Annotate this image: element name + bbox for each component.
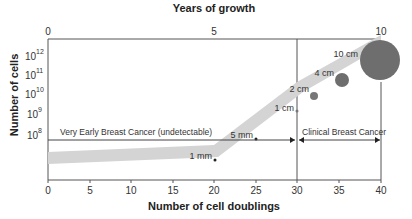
svg-text:10: 10 <box>36 86 44 93</box>
x-tick-40: 40 <box>375 185 387 196</box>
x-tick-30: 30 <box>291 185 303 196</box>
label-4cm: 4 cm <box>314 68 334 78</box>
top-tick-10: 10 <box>375 26 387 37</box>
svg-text:10: 10 <box>25 70 37 81</box>
label-1cm: 1 cm <box>274 103 294 113</box>
arrow-left-icon <box>299 137 304 143</box>
svg-text:10: 10 <box>27 130 39 141</box>
x-axis-label: Number of cell doublings <box>148 200 280 212</box>
svg-text:10: 10 <box>27 109 39 120</box>
circle-2cm <box>310 92 318 100</box>
top-tick-0: 0 <box>45 26 51 37</box>
label-2cm: 2 cm <box>289 84 309 94</box>
arrow-right-icon <box>290 137 295 143</box>
arrow-right-icon <box>375 137 380 143</box>
growth-band <box>48 35 381 164</box>
y-axis-label: Number of cells <box>8 54 20 137</box>
svg-text:10: 10 <box>25 51 37 62</box>
svg-text:9: 9 <box>38 106 42 113</box>
early-cancer-label: Very Early Breast Cancer (undetectable) <box>60 127 212 137</box>
label-5mm: 5 mm <box>231 130 254 140</box>
x-tick-25: 25 <box>250 185 262 196</box>
svg-text:12: 12 <box>36 48 44 55</box>
circle-10cm <box>360 40 400 80</box>
top-axis-label: Years of growth <box>173 2 256 14</box>
y-tick-1e8: 10 8 <box>27 127 42 141</box>
x-tick-20: 20 <box>208 185 220 196</box>
x-tick-5: 5 <box>87 185 93 196</box>
x-tick-0: 0 <box>45 185 51 196</box>
chart: Years of growth 0 5 10 1 mm 5 mm 1 cm 2 … <box>0 0 412 219</box>
svg-text:11: 11 <box>36 67 43 74</box>
clinical-cancer-label: Clinical Breast Cancer <box>302 127 386 137</box>
svg-text:10: 10 <box>25 89 37 100</box>
dot-1mm <box>214 159 217 162</box>
x-tick-35: 35 <box>333 185 345 196</box>
x-tick-10: 10 <box>125 185 137 196</box>
y-tick-1e12: 10 12 <box>25 48 44 62</box>
label-1mm: 1 mm <box>190 151 213 161</box>
circle-4cm <box>335 73 349 87</box>
label-10cm: 10 cm <box>333 49 358 59</box>
y-tick-1e10: 10 10 <box>25 86 44 100</box>
dot-1cm <box>296 110 299 113</box>
svg-text:8: 8 <box>38 127 42 134</box>
y-tick-1e9: 10 9 <box>27 106 42 120</box>
top-tick-5: 5 <box>211 26 217 37</box>
y-tick-1e11: 10 11 <box>25 67 43 81</box>
x-tick-15: 15 <box>167 185 179 196</box>
